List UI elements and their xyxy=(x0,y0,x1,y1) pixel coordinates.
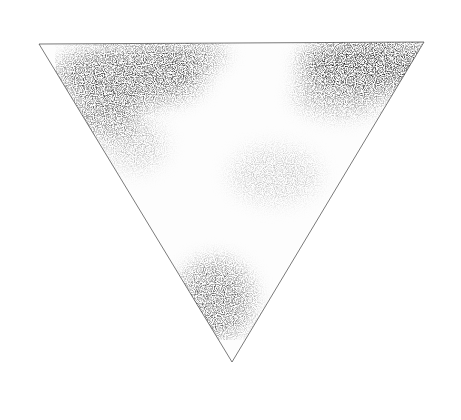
top-right-fade xyxy=(295,75,385,115)
center-speckle xyxy=(230,147,320,203)
left-speckle xyxy=(105,120,165,170)
triangle-body xyxy=(39,37,440,362)
triangle-print xyxy=(0,0,461,420)
top-left-upper-band xyxy=(135,41,225,69)
image-canvas xyxy=(0,0,461,420)
bottom-cloud xyxy=(177,260,253,340)
